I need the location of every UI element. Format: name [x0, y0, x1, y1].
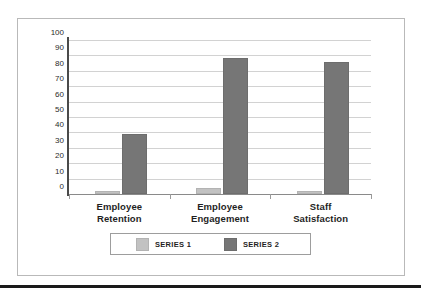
figure-container: 1009080706050403020100 EmployeeRetention… [0, 0, 421, 299]
y-tick-label: 50 [24, 106, 64, 114]
legend-swatch-series-2 [224, 238, 237, 251]
category-label-line: Satisfaction [270, 213, 371, 225]
legend-item-series-1[interactable]: SERIES 1 [136, 237, 191, 251]
legend-item-series-2[interactable]: SERIES 2 [224, 237, 279, 251]
x-tick [69, 194, 70, 199]
plot-wrapper: 1009080706050403020100 EmployeeRetention… [18, 19, 406, 277]
y-tick-label: 100 [24, 29, 64, 37]
page-horizontal-rule [0, 285, 421, 288]
x-tick [270, 194, 271, 199]
y-tick-label: 80 [24, 60, 64, 68]
y-tick-label: 70 [24, 75, 64, 83]
y-tick-label: 0 [24, 183, 64, 191]
legend-swatch-series-1 [136, 238, 149, 251]
x-tick [170, 194, 171, 199]
x-axis-line [69, 194, 371, 195]
category-label-line: Retention [69, 213, 170, 225]
legend-label-series-2: SERIES 2 [243, 240, 279, 249]
category-label-1: EmployeeRetention [69, 201, 170, 225]
category-label-line: Employee [170, 201, 271, 213]
bar-group [270, 40, 371, 194]
bar-2-2[interactable] [223, 58, 248, 194]
category-label-line: Staff [270, 201, 371, 213]
category-label-line: Employee [69, 201, 170, 213]
category-label-2: EmployeeEngagement [170, 201, 271, 225]
bar-group [170, 40, 271, 194]
legend-label-series-1: SERIES 1 [155, 240, 191, 249]
x-tick [371, 194, 372, 199]
bar-group [69, 40, 170, 194]
plot-area [69, 40, 371, 194]
y-tick-label: 60 [24, 91, 64, 99]
y-tick-label: 40 [24, 121, 64, 129]
category-label-line: Engagement [170, 213, 271, 225]
y-tick-label: 30 [24, 137, 64, 145]
chart-legend[interactable]: SERIES 1 SERIES 2 [110, 233, 311, 255]
y-tick-label: 10 [24, 168, 64, 176]
y-axis-tick-labels: 1009080706050403020100 [24, 33, 64, 193]
bar-2-1[interactable] [122, 134, 147, 194]
y-tick-label: 20 [24, 152, 64, 160]
y-tick-label: 90 [24, 44, 64, 52]
chart-frame: 1009080706050403020100 EmployeeRetention… [17, 18, 405, 276]
bar-2-3[interactable] [324, 62, 349, 194]
category-label-3: StaffSatisfaction [270, 201, 371, 225]
